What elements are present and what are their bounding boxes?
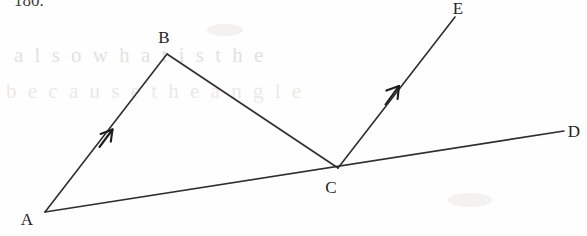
- vertex-label-a: A: [21, 210, 34, 229]
- vertex-label-b: B: [158, 28, 170, 47]
- geometry-diagram: a l s o w h a t i s t h e b e c a u s e …: [0, 0, 587, 236]
- bleed-text-row-1: a l s o w h a t i s t h e: [14, 43, 266, 67]
- segment-ce: [338, 17, 455, 168]
- figure-page: a l s o w h a t i s t h e b e c a u s e …: [0, 0, 587, 236]
- bleed-text-row-2: b e c a u s e t h e a n g l e: [6, 79, 304, 103]
- paper-speck: [207, 24, 243, 36]
- vertex-label-c: C: [325, 178, 337, 197]
- problem-number: 180.: [14, 0, 44, 10]
- vertex-label-d: D: [568, 122, 580, 141]
- arrow-head-ce-icon: [386, 86, 400, 105]
- vertex-label-e: E: [453, 0, 464, 18]
- segment-bc: [167, 54, 338, 168]
- paper-speck: [448, 193, 492, 207]
